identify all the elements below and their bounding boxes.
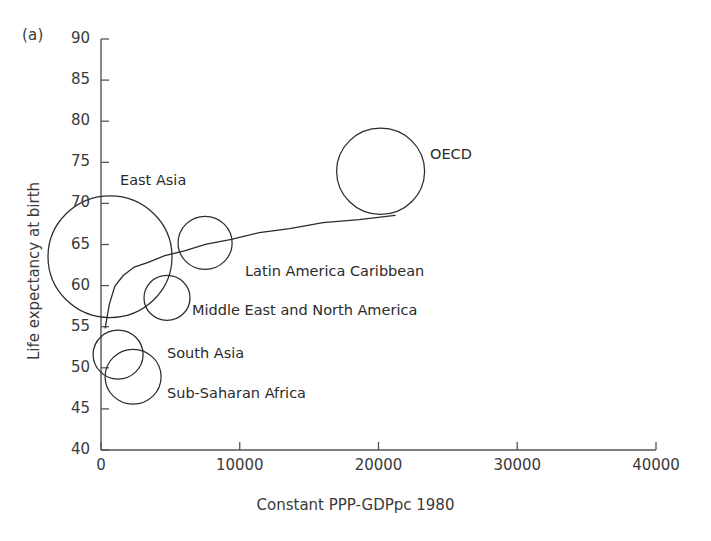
x-tick-label: 10000 xyxy=(195,456,285,474)
x-tick-label: 30000 xyxy=(472,456,562,474)
y-tick-label: 55 xyxy=(56,317,90,335)
bubble-oecd xyxy=(337,128,425,214)
y-tick-label: 90 xyxy=(56,29,90,47)
y-tick-label: 75 xyxy=(56,152,90,170)
annotation-latin-america-caribbean: Latin America Caribbean xyxy=(245,263,424,279)
y-tick-label: 50 xyxy=(56,358,90,376)
annotation-middle-east-and-north-america: Middle East and North America xyxy=(192,302,417,318)
annotation-south-asia: South Asia xyxy=(167,345,244,361)
chart-canvas: (a) Life expectancy at birth Constant PP… xyxy=(0,0,711,541)
annotation-sub-saharan-africa: Sub-Saharan Africa xyxy=(167,385,306,401)
y-tick-label: 60 xyxy=(56,276,90,294)
bubble-latin-america-caribbean xyxy=(178,216,232,269)
y-tick-label: 70 xyxy=(56,193,90,211)
y-tick-label: 85 xyxy=(56,70,90,88)
annotation-east-asia: East Asia xyxy=(120,172,186,188)
y-tick-label: 45 xyxy=(56,399,90,417)
x-tick-label: 20000 xyxy=(334,456,424,474)
bubble-east-asia xyxy=(48,196,172,318)
bubble-sub-saharan-africa xyxy=(105,349,161,404)
annotation-oecd: OECD xyxy=(430,146,472,162)
y-tick-label: 80 xyxy=(56,111,90,129)
y-tick-label: 65 xyxy=(56,235,90,253)
x-tick-label: 40000 xyxy=(611,456,701,474)
x-tick-label: 0 xyxy=(56,456,146,474)
